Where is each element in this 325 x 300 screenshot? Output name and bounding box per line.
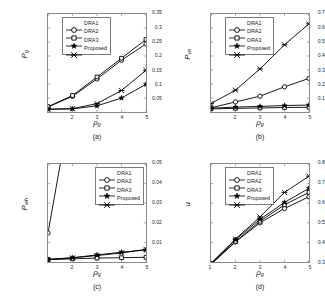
- legend-marker-x-icon: [65, 45, 83, 53]
- y-tick-label: 0.7: [281, 10, 325, 15]
- legend-label: DRA1: [246, 171, 261, 176]
- subplot-caption-d: (d): [210, 283, 310, 290]
- y-axis-label-a: Pg: [21, 31, 30, 77]
- legend-marker-star-icon: [228, 186, 246, 194]
- legend-label: Proposed: [83, 46, 107, 51]
- y-tick-label: 0.5: [281, 220, 325, 225]
- y-tick-label: 0.3: [281, 68, 325, 73]
- x-tick-label: 3: [252, 115, 268, 120]
- data-point-circle: [307, 76, 309, 80]
- y-tick-label: 0.6: [281, 25, 325, 30]
- legend-item: Proposed: [65, 44, 107, 52]
- legend-label: DRA2: [246, 29, 261, 34]
- x-tick-label: 4: [114, 115, 130, 120]
- y-tick-label: 0.8: [281, 160, 325, 165]
- legend-item: DRA2: [98, 178, 140, 186]
- x-tick-label: 5: [302, 265, 318, 270]
- legend-label: DRA1: [83, 21, 98, 26]
- legend-label: DRA2: [116, 179, 131, 184]
- legend-marker-circle-icon: [98, 170, 116, 178]
- y-axis-label-d: u: [184, 181, 193, 227]
- legend-marker-square-icon: [98, 178, 116, 186]
- subplot-caption-a: (a): [47, 133, 147, 140]
- y-tick-label: 0.3: [118, 25, 162, 30]
- data-point-x: [119, 88, 125, 93]
- data-point-square: [144, 255, 146, 259]
- x-tick-label: 3: [252, 265, 268, 270]
- legend-label: DRA2: [246, 179, 261, 184]
- x-tick-label: 4: [277, 115, 293, 120]
- legend-label: DRA3: [246, 38, 261, 43]
- legend-item: DRA1: [228, 170, 270, 178]
- legend-item: DRA3: [228, 186, 270, 194]
- x-axis-label-c: ρg: [47, 269, 147, 278]
- x-tick-label: 3: [89, 115, 105, 120]
- legend-item: Proposed: [98, 194, 140, 202]
- y-tick-label: 0.4: [281, 53, 325, 58]
- legend-label: Proposed: [246, 196, 270, 201]
- legend-b: DRA1DRA2DRA3Proposed: [225, 17, 274, 55]
- x-tick-label: 2: [64, 115, 80, 120]
- data-point-star: [119, 250, 124, 255]
- legend-marker-star-icon: [228, 36, 246, 44]
- data-point-circle: [233, 100, 237, 104]
- data-point-circle: [307, 195, 309, 199]
- legend-marker-square-icon: [65, 28, 83, 36]
- data-point-circle: [48, 231, 50, 235]
- x-tick-label: 2: [227, 115, 243, 120]
- data-point-square: [307, 191, 309, 195]
- data-point-x: [257, 66, 263, 71]
- subplot-d: u ρg (d) 0.30.40.50.60.70.812345DRA1DRA2…: [163, 150, 325, 300]
- legend-item: DRA2: [228, 28, 270, 36]
- x-tick-label: 1: [202, 265, 218, 270]
- subplot-b: Pvn ρg (b) 0.10.20.30.40.50.60.72345DRA1…: [163, 0, 325, 150]
- data-point-x: [71, 52, 78, 58]
- legend-c: DRA1DRA2DRA3Proposed: [95, 167, 144, 205]
- legend-label: DRA3: [246, 188, 261, 193]
- y-tick-label: 0.7: [281, 180, 325, 185]
- y-tick-label: 0.2: [118, 53, 162, 58]
- data-point-square: [95, 75, 99, 79]
- y-tick-label: 0.05: [118, 160, 162, 165]
- legend-item: DRA3: [65, 36, 107, 44]
- legend-label: DRA1: [246, 21, 261, 26]
- y-tick-label: 0.6: [281, 200, 325, 205]
- legend-marker-circle-icon: [65, 20, 83, 28]
- subplot-a: Pg ρg (a) 0.050.10.150.20.250.30.352345D…: [0, 0, 162, 150]
- legend-marker-circle-icon: [228, 170, 246, 178]
- legend-item: DRA2: [65, 28, 107, 36]
- y-tick-label: 0.01: [118, 240, 162, 245]
- x-tick-label: 4: [114, 265, 130, 270]
- x-axis-label-b: ρg: [210, 119, 310, 128]
- legend-label: DRA1: [116, 171, 131, 176]
- y-tick-label: 0.15: [118, 68, 162, 73]
- x-tick-label: 5: [139, 265, 155, 270]
- x-tick-label: 5: [302, 115, 318, 120]
- legend-marker-square-icon: [228, 28, 246, 36]
- x-axis-label-d: ρg: [210, 269, 310, 278]
- x-tick-label: 5: [139, 115, 155, 120]
- legend-label: DRA3: [83, 38, 98, 43]
- legend-item: DRA3: [98, 186, 140, 194]
- legend-marker-x-icon: [228, 45, 246, 53]
- figure-panel-grid: Pg ρg (a) 0.050.10.150.20.250.30.352345D…: [0, 0, 325, 300]
- legend-marker-star-icon: [65, 36, 83, 44]
- y-tick-label: 0.05: [118, 96, 162, 101]
- data-point-x: [233, 88, 239, 93]
- data-point-circle: [258, 94, 262, 98]
- y-tick-label: 0.25: [118, 39, 162, 44]
- legend-label: Proposed: [116, 196, 140, 201]
- y-tick-label: 0.1: [281, 96, 325, 101]
- y-tick-label: 0.2: [281, 82, 325, 87]
- legend-label: Proposed: [246, 46, 270, 51]
- legend-marker-square-icon: [228, 178, 246, 186]
- data-point-x: [104, 202, 111, 208]
- x-tick-label: 4: [277, 265, 293, 270]
- legend-d: DRA1DRA2DRA3Proposed: [225, 167, 274, 205]
- y-tick-label: 0.02: [118, 220, 162, 225]
- legend-item: DRA1: [98, 170, 140, 178]
- data-point-x: [282, 190, 288, 195]
- legend-item: DRA1: [228, 20, 270, 28]
- legend-item: Proposed: [228, 194, 270, 202]
- legend-item: DRA3: [228, 36, 270, 44]
